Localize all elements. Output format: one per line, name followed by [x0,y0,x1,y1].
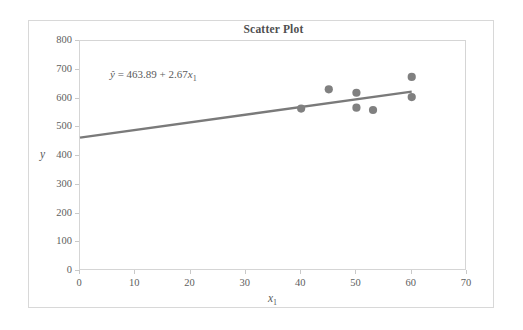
y-tick-label: 700 [32,64,72,74]
y-tick-label: 0 [32,265,72,275]
x-tick-label: 20 [170,278,210,288]
y-tick-label: 100 [32,236,72,246]
x-tick-label: 0 [59,278,99,288]
x-tick-label: 50 [335,278,375,288]
x-tick-label: 30 [225,278,265,288]
data-point [408,93,416,101]
regression-trendline [80,92,412,138]
plot-svg [80,41,467,271]
scatter-plot-figure: Scatter Plot ŷ = 463.89 + 2.67x1 y x1 01… [0,0,523,330]
data-point [352,104,360,112]
x-tick-label: 10 [114,278,154,288]
y-tick-label: 500 [32,121,72,131]
data-point [369,106,377,114]
y-tick-label: 300 [32,179,72,189]
x-axis-label-subscript: 1 [273,298,277,307]
y-tick-label: 400 [32,150,72,160]
x-axis-label: x1 [79,292,466,307]
data-point [297,104,305,112]
x-tick-label: 60 [391,278,431,288]
x-tick-label: 70 [446,278,486,288]
plot-area [79,40,466,270]
y-tick-label: 200 [32,208,72,218]
data-point [408,73,416,81]
data-point [325,85,333,93]
chart-title: Scatter Plot [80,23,467,35]
y-tick-label: 800 [32,35,72,45]
y-tick-label: 600 [32,93,72,103]
x-tick-label: 40 [280,278,320,288]
data-point [352,89,360,97]
